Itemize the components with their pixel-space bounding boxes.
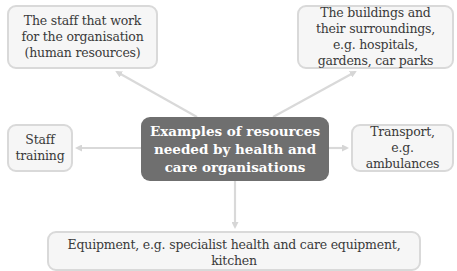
central-topic: Examples of resources needed by health a… [141, 117, 329, 181]
node-transport-label: Transport, e.g. ambulances [359, 124, 446, 172]
node-equipment-label: Equipment, e.g. specialist health and ca… [55, 237, 413, 269]
node-equipment: Equipment, e.g. specialist health and ca… [47, 231, 421, 271]
node-staff-label: The staff that work for the organisation… [15, 13, 150, 61]
node-staff: The staff that work for the organisation… [7, 5, 158, 69]
node-buildings-label: The buildings and their surroundings, e.… [305, 5, 446, 69]
node-buildings: The buildings and their surroundings, e.… [297, 5, 454, 69]
arrow-to-staff [117, 72, 197, 117]
central-topic-label: Examples of resources needed by health a… [149, 122, 321, 176]
arrow-to-buildings [273, 72, 355, 117]
node-staff-training: Staff training [7, 124, 73, 172]
node-staff-training-label: Staff training [15, 132, 65, 164]
node-transport: Transport, e.g. ambulances [351, 124, 454, 172]
